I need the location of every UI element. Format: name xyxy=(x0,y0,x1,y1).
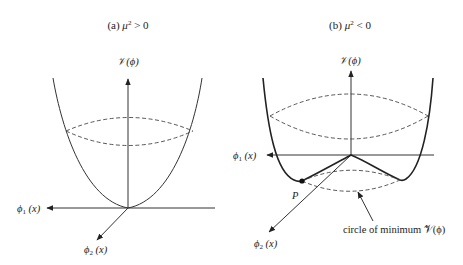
panel-b-hump xyxy=(302,155,400,181)
panel-b-phi1-label: ϕ1 (x) xyxy=(233,150,257,163)
point-p-label: P xyxy=(291,190,299,201)
annotation-arrow xyxy=(358,192,373,221)
panel-a-phi2-axis xyxy=(97,208,128,240)
panel-a-phi2-label: ϕ2 (x) xyxy=(84,244,108,257)
panel-b-phi2-label: ϕ2 (x) xyxy=(254,238,278,251)
potential-diagram: (a) μ2 > 0 𝒱(ϕ) ϕ1 (x) ϕ2 (x) (b) μ2 < 0… xyxy=(0,0,463,265)
panel-b-upper-ellipse-back xyxy=(270,94,428,116)
panel-b: (b) μ2 < 0 𝒱(ϕ) P circle of minimum 𝒱(ϕ)… xyxy=(233,19,446,251)
panel-b-title: (b) μ2 < 0 xyxy=(329,19,371,32)
panel-a-title: (a) μ2 > 0 xyxy=(107,19,149,32)
panel-b-right-wall xyxy=(400,78,433,180)
panel-b-left-wall xyxy=(263,78,302,181)
panel-a: (a) μ2 > 0 𝒱(ϕ) ϕ1 (x) ϕ2 (x) xyxy=(17,19,215,257)
point-p xyxy=(299,178,304,183)
panel-b-potential-label: 𝒱(ϕ) xyxy=(339,55,361,67)
panel-a-ellipse-front xyxy=(66,131,193,146)
panel-b-minima-circle-front xyxy=(302,180,400,191)
annotation-label: circle of minimum 𝒱(ϕ) xyxy=(343,224,446,236)
panel-a-ellipse-back xyxy=(66,118,193,132)
panel-a-phi1-label: ϕ1 (x) xyxy=(17,203,41,216)
panel-b-upper-ellipse-front xyxy=(270,116,428,139)
panel-a-potential-label: 𝒱(ϕ) xyxy=(117,56,139,68)
